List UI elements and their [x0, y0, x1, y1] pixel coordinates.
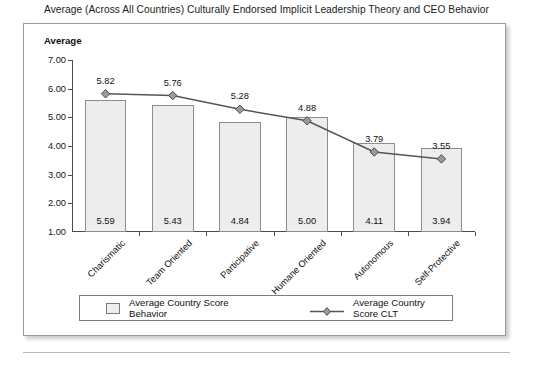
diamond-marker-icon — [169, 91, 177, 99]
bottom-divider — [23, 352, 510, 353]
line-value-label: 4.88 — [298, 103, 316, 113]
x-tick-mark — [475, 232, 476, 236]
y-tick-label: 1.00 — [48, 227, 72, 237]
x-category-label: Humane Oriented — [270, 238, 328, 296]
figure-caption: Average (Across All Countries) Culturall… — [0, 4, 533, 15]
x-category-label: Charismatic — [85, 238, 126, 279]
chart-card: Average 7.006.005.004.003.002.001.00 5.5… — [23, 23, 506, 336]
x-category-label: Participative — [219, 238, 261, 280]
x-category-label: Team Oriented — [144, 238, 194, 288]
line-value-label: 5.82 — [97, 76, 115, 86]
chart-page: Average (Across All Countries) Culturall… — [0, 0, 533, 365]
legend-item-behavior: Average Country Score Behavior — [106, 297, 250, 319]
diamond-marker-icon — [101, 90, 109, 98]
legend-label-clt: Average Country Score CLT — [353, 297, 452, 319]
line-value-label: 5.28 — [231, 91, 249, 101]
legend-item-clt: Average Country Score CLT — [310, 297, 452, 319]
diamond-marker-icon — [437, 155, 445, 163]
line-series — [72, 60, 475, 232]
line-value-label: 3.55 — [432, 141, 450, 151]
plot-area: 7.006.005.004.003.002.001.00 5.595.434.8… — [72, 60, 475, 232]
line-value-label: 3.79 — [365, 134, 383, 144]
legend-line-diamond-icon — [310, 303, 344, 314]
chart-legend: Average Country Score Behavior Average C… — [79, 295, 453, 321]
x-category-label: Autonomous — [352, 238, 396, 282]
x-axis-labels: CharismaticTeam OrientedParticipativeHum… — [72, 232, 475, 292]
x-category-label: Self-Protective — [413, 238, 462, 287]
diamond-marker-icon — [370, 148, 378, 156]
line-path — [106, 94, 442, 159]
diamond-marker-icon — [236, 105, 244, 113]
line-value-label: 5.76 — [164, 78, 182, 88]
diamond-marker-icon — [303, 117, 311, 125]
legend-label-behavior: Average Country Score Behavior — [129, 297, 250, 319]
legend-swatch-icon — [106, 303, 120, 314]
y-axis-title: Average — [44, 35, 82, 46]
